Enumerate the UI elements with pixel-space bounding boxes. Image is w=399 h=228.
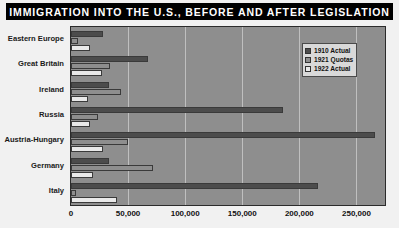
legend-swatch-icon — [305, 48, 311, 54]
bar-group — [71, 104, 385, 128]
bar — [71, 197, 117, 203]
category-label: Eastern Europe — [0, 34, 64, 43]
chart-figure: IMMIGRATION INTO THE U.S., BEFORE AND AF… — [0, 0, 399, 228]
legend-label: 1921 Quotas — [314, 56, 353, 64]
category-label: Austria-Hungary — [0, 135, 64, 144]
bar — [71, 56, 148, 62]
legend-swatch-icon — [305, 57, 311, 63]
bar-group — [71, 155, 385, 179]
x-tick-label: 150,000 — [228, 209, 257, 218]
legend-item: 1921 Quotas — [305, 56, 353, 64]
legend-label: 1922 Actual — [314, 65, 350, 73]
bar — [71, 121, 90, 127]
bar — [71, 183, 318, 189]
bar-group — [71, 180, 385, 204]
x-tick-label: 100,000 — [171, 209, 200, 218]
bar — [71, 31, 103, 37]
bar — [71, 82, 109, 88]
legend-label: 1910 Actual — [314, 47, 350, 55]
category-label: Germany — [0, 161, 64, 170]
bar-group — [71, 129, 385, 153]
bar — [71, 107, 283, 113]
category-label: Russia — [0, 110, 64, 119]
bar-group — [71, 79, 385, 103]
bar — [71, 165, 153, 171]
bar — [71, 38, 78, 44]
bar — [71, 45, 90, 51]
legend-item: 1910 Actual — [305, 47, 353, 55]
chart-title: IMMIGRATION INTO THE U.S., BEFORE AND AF… — [6, 3, 393, 20]
category-label: Italy — [0, 186, 64, 195]
bar — [71, 89, 121, 95]
x-tick-label: 50,000 — [116, 209, 140, 218]
x-axis-tick-labels: 050,000100,000150,000200,000250,000 — [0, 209, 399, 223]
legend-item: 1922 Actual — [305, 65, 353, 73]
bar — [71, 172, 93, 178]
bar — [71, 70, 102, 76]
legend-swatch-icon — [305, 66, 311, 72]
bar — [71, 132, 375, 138]
bar — [71, 190, 76, 196]
bar — [71, 63, 110, 69]
x-tick-label: 250,000 — [342, 209, 371, 218]
category-label: Ireland — [0, 85, 64, 94]
category-label: Great Britain — [0, 59, 64, 68]
bar — [71, 139, 128, 145]
chart-legend: 1910 Actual1921 Quotas1922 Actual — [302, 43, 357, 77]
bar — [71, 114, 98, 120]
x-tick-label: 0 — [69, 209, 73, 218]
y-axis-category-labels: Eastern EuropeGreat BritainIrelandRussia… — [0, 26, 66, 206]
bar — [71, 158, 109, 164]
bar — [71, 146, 103, 152]
x-tick-label: 200,000 — [285, 209, 314, 218]
bar — [71, 96, 88, 102]
